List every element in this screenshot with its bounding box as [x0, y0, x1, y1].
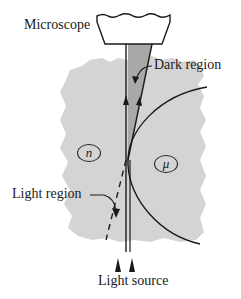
light-source-arrow-icon — [115, 258, 121, 272]
dark-region-label: Dark region — [154, 58, 221, 72]
diagram-canvas — [0, 0, 241, 299]
medium-n-label: n — [77, 144, 101, 162]
light-source-arrow-icon — [129, 258, 135, 272]
microscope-icon — [97, 14, 170, 44]
microscope-label: Microscope — [24, 18, 90, 32]
medium-mu-label: μ — [154, 155, 178, 173]
light-region-label: Light region — [12, 187, 82, 201]
light-source-label: Light source — [98, 274, 168, 288]
